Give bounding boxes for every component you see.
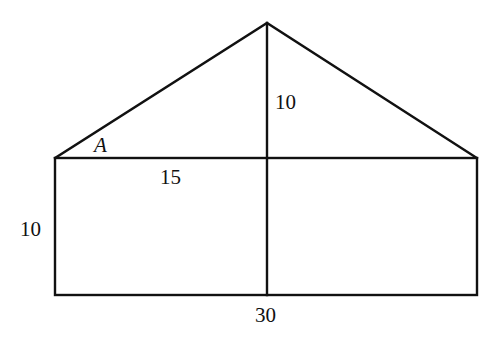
base-width-label: 30 bbox=[255, 303, 276, 327]
house-diagram: A 10 15 10 30 bbox=[0, 0, 501, 338]
triangle-height-label: 10 bbox=[275, 90, 296, 114]
angle-label-a: A bbox=[92, 133, 107, 157]
half-base-label: 15 bbox=[160, 165, 181, 189]
rect-height-label: 10 bbox=[20, 217, 41, 241]
